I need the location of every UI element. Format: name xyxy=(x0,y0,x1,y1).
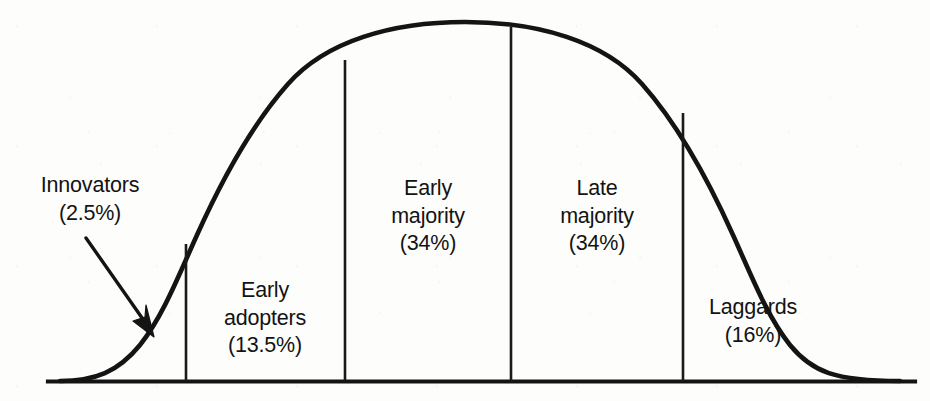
label-laggards-name: Laggards xyxy=(709,294,797,322)
label-early-adopters-name2: adopters xyxy=(224,305,306,333)
label-late-majority: Late majority (34%) xyxy=(560,175,634,258)
label-late-majority-name: Late xyxy=(560,175,634,203)
label-early-adopters-name: Early xyxy=(224,277,306,305)
label-early-majority-name2: majority xyxy=(391,203,465,231)
label-late-majority-name2: majority xyxy=(560,203,634,231)
diffusion-of-innovations-figure: Innovators (2.5%) Early adopters (13.5%)… xyxy=(0,0,930,401)
label-innovators-percent: (2.5%) xyxy=(41,200,139,228)
label-late-majority-percent: (34%) xyxy=(560,230,634,258)
label-early-majority-percent: (34%) xyxy=(391,230,465,258)
label-innovators-name: Innovators xyxy=(41,172,139,200)
innovators-callout-arrow xyxy=(86,238,154,337)
label-early-adopters-percent: (13.5%) xyxy=(224,332,306,360)
label-early-adopters: Early adopters (13.5%) xyxy=(224,277,306,360)
label-early-majority-name: Early xyxy=(391,175,465,203)
label-laggards: Laggards (16%) xyxy=(709,294,797,349)
label-early-majority: Early majority (34%) xyxy=(391,175,465,258)
label-innovators: Innovators (2.5%) xyxy=(41,172,139,227)
label-laggards-percent: (16%) xyxy=(709,322,797,350)
